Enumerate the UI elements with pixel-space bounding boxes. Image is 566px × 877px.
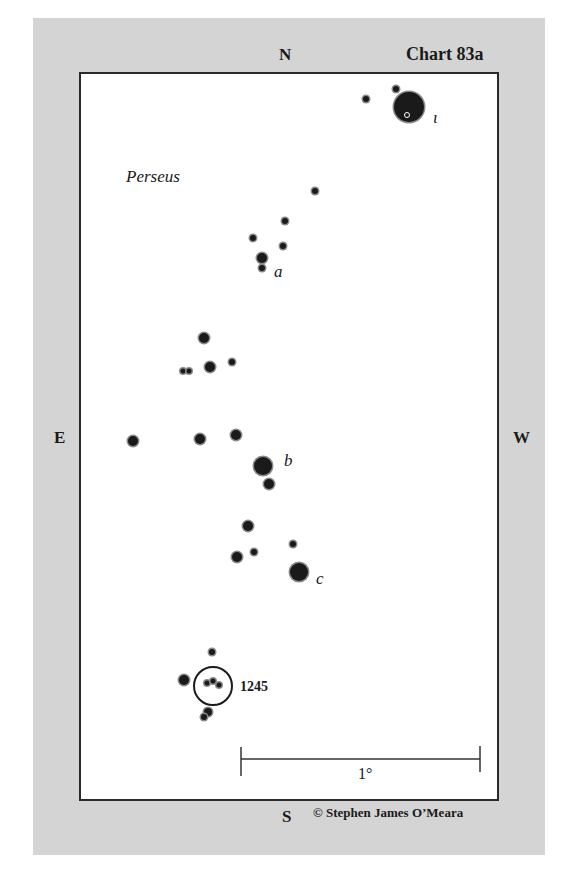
star <box>254 457 272 475</box>
star <box>181 369 186 374</box>
star-label: ι <box>433 108 438 127</box>
star <box>187 369 192 374</box>
star <box>250 235 256 241</box>
star <box>257 253 267 263</box>
star <box>290 563 308 581</box>
star-label: c <box>316 569 324 588</box>
star <box>290 541 296 547</box>
star <box>393 86 399 92</box>
star <box>229 359 235 365</box>
star <box>209 649 215 655</box>
star <box>217 683 222 688</box>
star <box>201 714 207 720</box>
star <box>179 675 189 685</box>
star <box>363 96 369 102</box>
star <box>205 681 210 686</box>
star-map: ιabc <box>0 0 566 877</box>
star <box>259 265 265 271</box>
star <box>232 552 242 562</box>
star <box>211 679 216 684</box>
star <box>282 218 288 224</box>
star <box>128 436 138 446</box>
star <box>251 549 257 555</box>
star <box>280 243 286 249</box>
star <box>243 521 253 531</box>
star <box>312 188 318 194</box>
star-label: b <box>284 451 293 470</box>
star <box>199 333 209 343</box>
star <box>264 479 274 489</box>
star <box>394 92 424 122</box>
cluster-circle <box>194 667 232 705</box>
star <box>205 362 215 372</box>
star-label: a <box>274 262 283 281</box>
star <box>195 434 205 444</box>
star <box>231 430 241 440</box>
